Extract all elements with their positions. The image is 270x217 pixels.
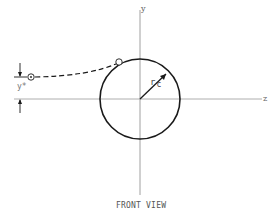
radius-label-main: r: [150, 77, 155, 87]
radius-label-sub: c: [156, 80, 161, 89]
particle-start-icon: [28, 74, 34, 80]
diagram-canvas: [0, 0, 270, 217]
radius-label: rc: [150, 78, 161, 87]
y-axis-label: y: [141, 5, 146, 13]
figure-caption: FRONT VIEW: [116, 201, 166, 210]
z-axis-label: z: [263, 95, 267, 103]
front-view-figure: y z y* rc FRONT VIEW: [0, 0, 270, 217]
impact-point-icon: [116, 59, 122, 65]
particle-trajectory: [35, 63, 118, 77]
offset-label: y*: [17, 83, 27, 91]
